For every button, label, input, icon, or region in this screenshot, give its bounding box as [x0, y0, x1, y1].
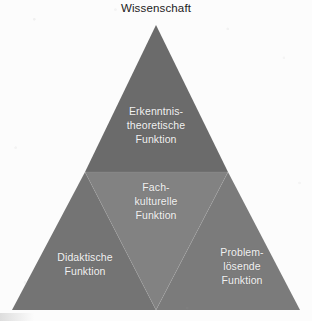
region-epistemic-shape: [85, 25, 228, 172]
region-label-problem: Problem- lösende Funktion: [196, 245, 288, 288]
figure-title: Wissenschaft: [0, 2, 312, 14]
region-label-cultural: Fach- kulturelle Funktion: [111, 180, 201, 223]
region-label-didactic: Didaktische Funktion: [32, 250, 138, 278]
pyramid-figure: Wissenschaft Erkenntnis- theoretische Fu…: [0, 0, 312, 321]
region-label-epistemic: Erkenntnis- theoretische Funktion: [106, 104, 206, 147]
